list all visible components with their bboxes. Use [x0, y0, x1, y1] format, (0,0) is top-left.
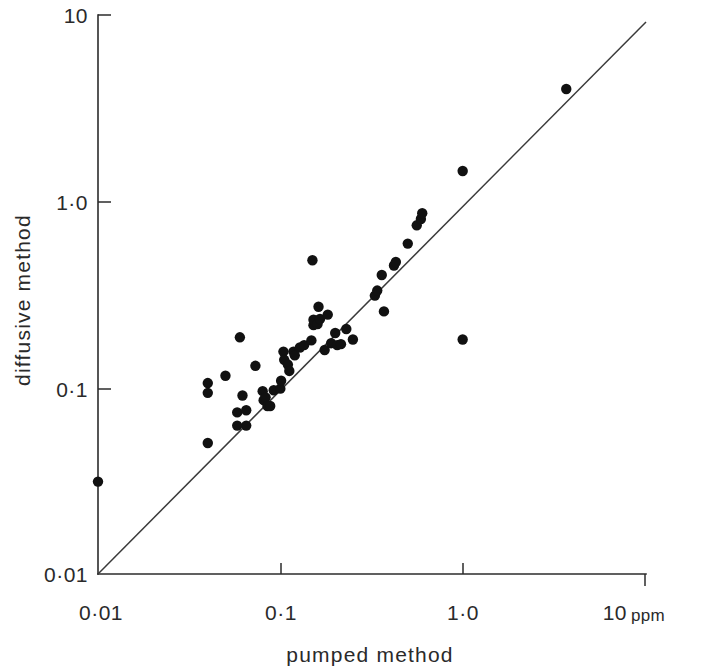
data-point [323, 309, 333, 319]
data-point [232, 407, 242, 417]
data-point [561, 84, 571, 94]
data-point [313, 302, 323, 312]
x-tick-label-1: 1·0 [447, 601, 479, 624]
data-point [241, 405, 251, 415]
data-point [220, 371, 230, 381]
data-point [306, 335, 316, 345]
x-tick-label-10: 10 [603, 601, 627, 624]
data-point [307, 255, 317, 265]
x-axis-unit-label: ppm [631, 606, 665, 625]
data-point [276, 376, 286, 386]
data-point [235, 332, 245, 342]
data-point [250, 361, 260, 371]
data-point [379, 306, 389, 316]
x-tick-label-0-1: 0·1 [265, 601, 297, 624]
y-axis-ticks [98, 15, 111, 389]
data-point [203, 378, 213, 388]
data-point [457, 166, 467, 176]
data-point [341, 324, 351, 334]
data-point [403, 238, 413, 248]
data-point [284, 366, 294, 376]
data-point [457, 334, 467, 344]
data-point [336, 339, 346, 349]
data-point [265, 401, 275, 411]
data-point [203, 438, 213, 448]
y-tick-label-0-01: 0·01 [44, 563, 88, 586]
data-point [203, 388, 213, 398]
data-point [93, 476, 103, 486]
data-point [372, 285, 382, 295]
plot-canvas: 10 1·0 0·1 0·01 0·01 0·1 1·0 10 ppm diff… [0, 0, 706, 670]
y-tick-label-10: 10 [64, 4, 88, 27]
data-point [417, 208, 427, 218]
data-point [330, 328, 340, 338]
figure-scatter-plot: 10 1·0 0·1 0·01 0·01 0·1 1·0 10 ppm diff… [0, 0, 706, 670]
data-point [241, 420, 251, 430]
y-tick-label-0-1: 0·1 [56, 378, 88, 401]
data-point [348, 334, 358, 344]
data-point [377, 270, 387, 280]
x-tick-label-0-01: 0·01 [79, 601, 123, 624]
y-axis-title: diffusive method [11, 214, 34, 386]
data-point [391, 257, 401, 267]
data-points-layer [93, 84, 572, 487]
data-point [232, 420, 242, 430]
y-tick-label-1: 1·0 [56, 191, 88, 214]
x-axis-title: pumped method [286, 643, 453, 666]
data-point [237, 390, 247, 400]
